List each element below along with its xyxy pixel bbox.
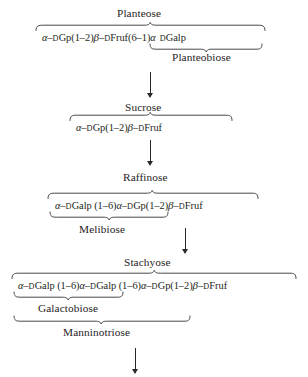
formula-planteose: α–DGp(1–2)β–DFruf(6–1)αDGalp <box>42 32 186 43</box>
label-sucrose: Sucrose <box>125 102 161 113</box>
oligosaccharide-pathway-diagram: Planteose α–DGp(1–2)β–DFruf(6–1)αDGalp P… <box>0 0 308 377</box>
brace-planteose-top <box>36 22 265 30</box>
brace-sucrose-top <box>70 112 232 120</box>
label-melibiose: Melibiose <box>79 224 125 235</box>
brace-raffinose-top <box>48 190 258 198</box>
label-raffinose: Raffinose <box>123 172 168 183</box>
brace-layer <box>0 0 308 377</box>
cropped-text-remnant <box>96 0 246 3</box>
label-planteose: Planteose <box>117 8 161 19</box>
brace-galactobiose <box>14 292 123 300</box>
brace-stachyose-top <box>12 270 296 278</box>
brace-melibiose <box>50 212 168 220</box>
label-manninotriose: Manninotriose <box>63 327 130 338</box>
brace-manninotriose <box>14 316 190 324</box>
formula-sucrose: α–DGp(1–2)β–DFruf <box>76 122 162 133</box>
formula-raffinose: α–DGalp (1–6)α–DGp(1–2)β–DFruf <box>55 200 203 211</box>
label-planteobiose: Planteobiose <box>172 52 231 63</box>
label-stachyose: Stachyose <box>124 257 171 268</box>
formula-stachyose: α–DGalp (1–6)α–DGalp (1–6)α–DGp(1–2)β–DF… <box>18 280 227 291</box>
label-galactobiose: Galactobiose <box>38 303 98 314</box>
